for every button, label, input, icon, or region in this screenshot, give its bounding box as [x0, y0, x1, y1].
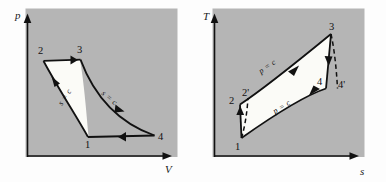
- pv-x-axis-label: V: [165, 163, 173, 175]
- ts-point-4-label: 4: [317, 76, 323, 87]
- ts-point-2prime-label: 2': [242, 87, 249, 98]
- ts-y-axis-label: T: [203, 10, 210, 22]
- pv-point-4-label: 4: [158, 131, 164, 142]
- pv-y-axis-label: p: [14, 9, 21, 21]
- ts-x-axis-label: s: [360, 165, 364, 177]
- thermodynamic-cycle-figure: p V 2 3 1 4 s = c s = c: [0, 0, 386, 182]
- pv-point-3-label: 3: [77, 44, 82, 55]
- ts-diagram-panel: T s 1 2 2' 3 4 4' p = c p = c: [193, 0, 386, 182]
- pv-diagram-panel: p V 2 3 1 4 s = c s = c: [0, 0, 193, 182]
- ts-point-4prime-label: 4': [338, 79, 345, 90]
- ts-point-2-label: 2: [229, 95, 234, 106]
- pv-point-1-label: 1: [85, 139, 90, 150]
- ts-point-3-label: 3: [329, 21, 334, 32]
- ts-point-1-label: 1: [235, 141, 240, 152]
- pv-point-2-label: 2: [38, 45, 43, 56]
